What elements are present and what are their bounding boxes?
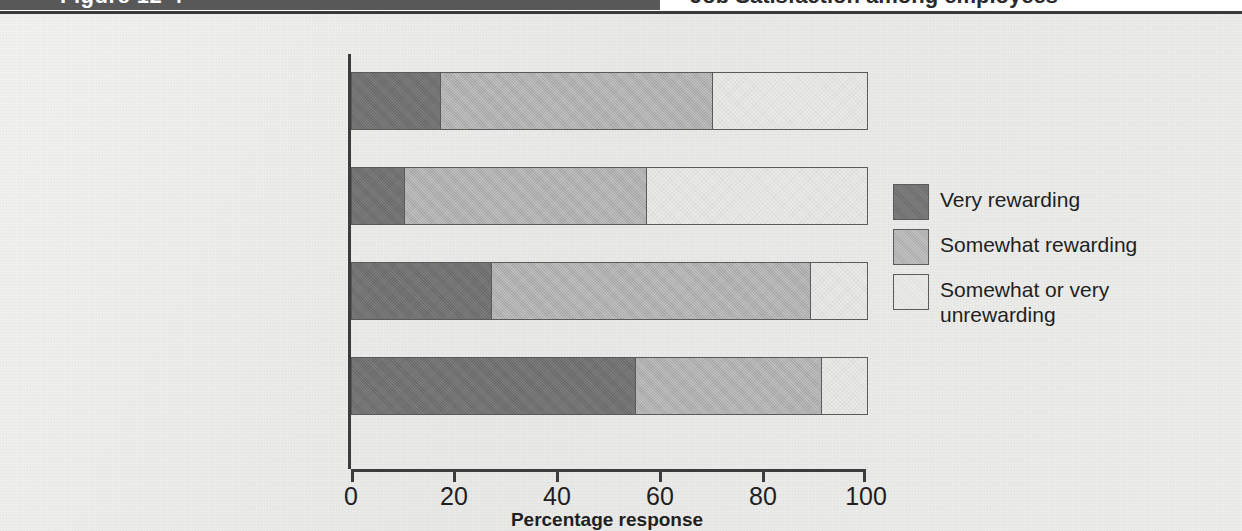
x-axis-title: Percentage response	[0, 509, 1242, 531]
bar-segment	[646, 168, 867, 224]
figure-title: Job Satisfaction among employees	[690, 0, 1058, 9]
x-axis-line	[351, 469, 866, 472]
bar-1	[351, 72, 868, 130]
bar-segment	[404, 168, 646, 224]
x-axis-tick	[863, 469, 866, 482]
bar-segment	[352, 358, 635, 414]
x-axis-tick-label: 80	[749, 482, 777, 511]
bar-4	[351, 357, 868, 415]
legend-swatch	[893, 229, 929, 265]
legend-item: Somewhat or very unrewarding	[893, 274, 1223, 327]
legend-swatch	[893, 184, 929, 220]
figure-header: Figure 12-4 Job Satisfaction among emplo…	[0, 0, 1242, 12]
x-axis-tick	[659, 469, 662, 482]
plot-area: Work for the public sectorWork for large…	[351, 54, 866, 469]
x-axis-tick-label: 40	[543, 482, 571, 511]
legend-label: Somewhat rewarding	[940, 229, 1137, 257]
figure-number-label: Figure 12-4	[60, 0, 183, 9]
x-axis-tick	[556, 469, 559, 482]
bar-segment	[821, 358, 867, 414]
bar-segment	[810, 263, 867, 319]
chart-legend: Very rewardingSomewhat rewardingSomewhat…	[893, 184, 1223, 336]
legend-swatch	[893, 274, 929, 310]
legend-label: Very rewarding	[940, 184, 1080, 212]
bar-segment	[352, 168, 404, 224]
bar-segment	[491, 263, 810, 319]
bar-segment	[352, 73, 440, 129]
legend-label: Somewhat or very unrewarding	[940, 274, 1109, 327]
bar-segment	[712, 73, 867, 129]
legend-item: Somewhat rewarding	[893, 229, 1223, 265]
x-axis-tick	[351, 469, 354, 482]
bar-3	[351, 262, 868, 320]
x-axis-tick-label: 0	[344, 482, 358, 511]
bar-segment	[352, 263, 491, 319]
bar-segment	[635, 358, 820, 414]
x-axis-tick-label: 20	[440, 482, 468, 511]
figure-tag-block: Figure 12-4	[0, 0, 660, 10]
bar-2	[351, 167, 868, 225]
x-axis-tick	[453, 469, 456, 482]
bar-segment	[440, 73, 713, 129]
chart-panel: Work for the public sectorWork for large…	[0, 14, 1242, 531]
x-axis-tick	[762, 469, 765, 482]
legend-item: Very rewarding	[893, 184, 1223, 220]
x-axis-tick-label: 100	[845, 482, 887, 511]
x-axis-tick-label: 60	[646, 482, 674, 511]
x-axis-title-text: Percentage response	[511, 509, 703, 530]
